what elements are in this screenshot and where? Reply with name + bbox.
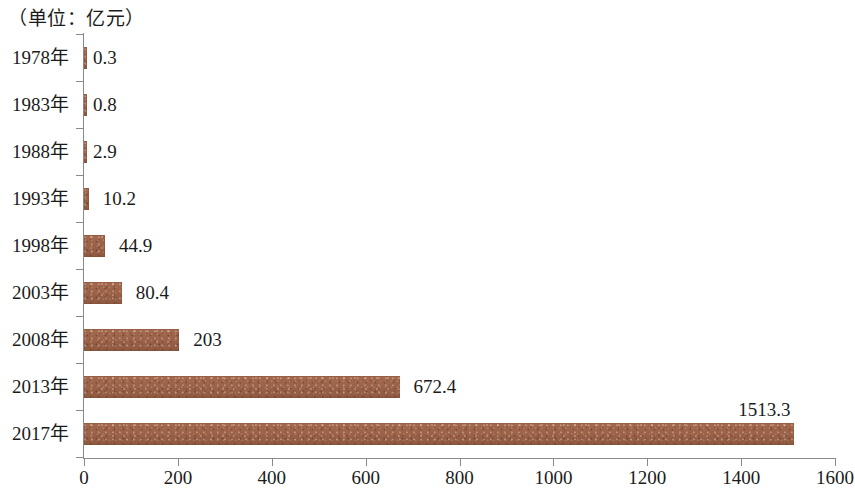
- bar: [84, 188, 89, 210]
- category-label: 1978年: [0, 34, 69, 81]
- bar: [84, 141, 87, 163]
- category-label: 1998年: [0, 222, 69, 269]
- category-label: 1993年: [0, 175, 69, 222]
- x-axis-tick: [272, 459, 273, 466]
- bar-row: 2003年80.4: [0, 269, 855, 316]
- bar: [84, 282, 122, 304]
- bar-row: 2017年1513.3: [0, 410, 855, 457]
- bar-value-label: 2.9: [93, 141, 117, 163]
- x-axis-tick-label: 1400: [722, 466, 760, 490]
- bar-row: 2013年672.4: [0, 363, 855, 410]
- x-axis-tick: [647, 459, 648, 466]
- category-label: 2017年: [0, 410, 69, 457]
- bar: [84, 329, 179, 351]
- category-label: 2003年: [0, 269, 69, 316]
- bar-row: 1978年0.3: [0, 34, 855, 81]
- bar-value-label: 672.4: [414, 376, 457, 398]
- x-axis-tick: [835, 459, 836, 466]
- category-label: 1988年: [0, 128, 69, 175]
- bar-value-label: 10.2: [103, 188, 136, 210]
- bar-chart: （单位：亿元） 1978年0.31983年0.81988年2.91993年10.…: [0, 0, 855, 491]
- bar-row: 1983年0.8: [0, 81, 855, 128]
- bar: [84, 235, 105, 257]
- x-axis-tick-label: 600: [351, 466, 380, 490]
- bar-value-label: 44.9: [119, 235, 152, 257]
- bar-value-label: 1513.3: [738, 399, 790, 421]
- bar: [84, 376, 400, 398]
- y-axis-tick: [76, 457, 84, 458]
- x-axis-tick: [741, 459, 742, 466]
- category-label: 1983年: [0, 81, 69, 128]
- bar-row: 1988年2.9: [0, 128, 855, 175]
- x-axis-tick-label: 1200: [628, 466, 666, 490]
- bar-value-label: 0.3: [93, 47, 117, 69]
- x-axis-tick-label: 0: [79, 466, 89, 490]
- bar-row: 1998年44.9: [0, 222, 855, 269]
- bar: [84, 47, 87, 69]
- bar-value-label: 203: [193, 329, 222, 351]
- x-axis-tick-label: 1600: [816, 466, 854, 490]
- bar-row: 1993年10.2: [0, 175, 855, 222]
- x-axis-tick-label: 400: [258, 466, 287, 490]
- x-axis-tick-label: 800: [445, 466, 474, 490]
- bar-row: 2008年203: [0, 316, 855, 363]
- x-axis-tick: [553, 459, 554, 466]
- x-axis-tick: [84, 459, 85, 466]
- bar-value-label: 80.4: [136, 282, 169, 304]
- bar-value-label: 0.8: [93, 94, 117, 116]
- x-axis-tick-label: 200: [164, 466, 193, 490]
- x-axis-tick: [178, 459, 179, 466]
- category-label: 2008年: [0, 316, 69, 363]
- bar: [84, 423, 794, 445]
- category-label: 2013年: [0, 363, 69, 410]
- x-axis-tick-label: 1000: [534, 466, 572, 490]
- chart-unit-title: （单位：亿元）: [8, 7, 145, 31]
- x-axis-tick: [366, 459, 367, 466]
- x-axis-tick: [460, 459, 461, 466]
- bar: [84, 94, 87, 116]
